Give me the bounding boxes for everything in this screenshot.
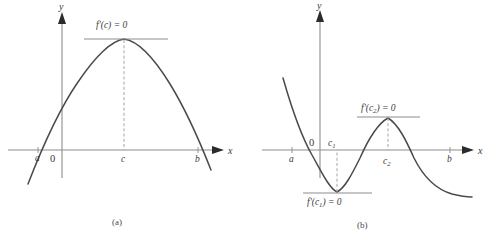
panel-a-y-axis bbox=[58, 12, 66, 178]
panel-a-x-axis-label: x bbox=[227, 145, 233, 156]
panel-b-min-close: ) = 0 bbox=[322, 197, 342, 208]
panel-b-tick-label-a: a bbox=[289, 154, 294, 164]
panel-b-tick-label-c2: c2 bbox=[383, 156, 391, 167]
panel-b-y-axis bbox=[316, 10, 324, 178]
panel-b-c1-subscript: 1 bbox=[332, 142, 335, 149]
panel-b-tick-label-b: b bbox=[447, 154, 452, 164]
panel-a-y-axis-label: y bbox=[58, 1, 64, 12]
panel-a-tick-label-c: c bbox=[121, 154, 126, 164]
panel-a-tick-label-a: a bbox=[35, 153, 40, 163]
panel-a-origin-label: 0 bbox=[50, 153, 55, 164]
panel-b-y-axis-label: y bbox=[316, 0, 322, 11]
panel-b-max-close: ) = 0 bbox=[376, 103, 396, 114]
panel-a-annot-tail: ) = 0 bbox=[107, 20, 127, 31]
panel-a: y x a 0 c b f′(c) = 0 (a) bbox=[8, 1, 233, 227]
panel-a-curve bbox=[28, 39, 211, 184]
panel-b: y x a 0 c1 c2 b f′(c2) = 0 f′(c1) = 0 (b… bbox=[262, 0, 483, 230]
panel-b-origin-label: 0 bbox=[309, 137, 314, 148]
panel-b-derivative-annotation-min: f′(c1) = 0 bbox=[307, 197, 342, 208]
calculus-critical-points-figure: y x a 0 c b f′(c) = 0 (a) bbox=[0, 0, 490, 238]
panel-b-derivative-annotation-max: f′(c2) = 0 bbox=[361, 103, 396, 114]
panel-b-x-axis-label: x bbox=[477, 145, 483, 156]
panel-b-caption: (b) bbox=[357, 220, 368, 230]
panel-b-c2-subscript: 2 bbox=[387, 160, 391, 167]
panel-b-x-axis bbox=[262, 146, 474, 154]
panel-a-derivative-annotation: f′(c) = 0 bbox=[96, 20, 127, 31]
panel-b-tick-label-c1: c1 bbox=[328, 138, 336, 149]
panel-a-tick-label-b: b bbox=[195, 154, 200, 164]
panel-a-caption: (a) bbox=[112, 217, 122, 227]
